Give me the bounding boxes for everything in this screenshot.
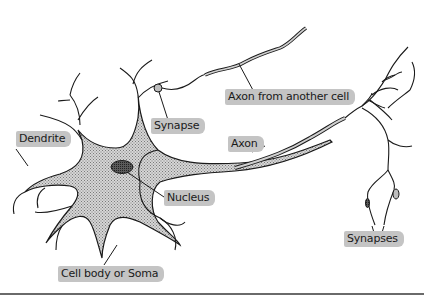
label-dendrite: Dendrite bbox=[16, 131, 71, 147]
synapse-knob-left bbox=[366, 199, 370, 208]
label-cell-body: Cell body or Soma bbox=[58, 266, 164, 282]
nucleus-shape bbox=[111, 161, 133, 174]
axon-terminals bbox=[345, 47, 414, 225]
label-axon: Axon bbox=[228, 136, 264, 152]
bottom-rule bbox=[0, 293, 424, 295]
label-synapse: Synapse bbox=[151, 118, 205, 134]
label-nucleus: Nucleus bbox=[164, 190, 215, 206]
axon-from-another-cell-shape bbox=[205, 28, 306, 75]
neuron-diagram: Dendrite Synapse Axon from another cell … bbox=[0, 0, 424, 299]
label-synapses: Synapses bbox=[344, 231, 404, 247]
neuron-illustration bbox=[0, 0, 424, 299]
synapse-knob-right bbox=[393, 189, 399, 199]
label-axon-from-another-cell: Axon from another cell bbox=[225, 89, 355, 105]
